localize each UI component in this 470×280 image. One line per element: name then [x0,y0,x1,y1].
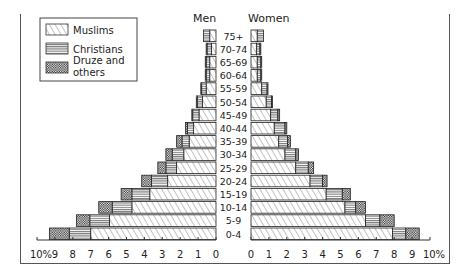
legend-label-christians: Christians [73,44,123,55]
bar-women-muslims-40-44 [251,122,274,134]
population-pyramid-chart: Muslims Christians Druze and others Men … [0,0,470,280]
women-tick-label: 4 [319,249,325,260]
bar-women-christians-15-19 [326,188,342,200]
women-tick-label: 2 [284,249,290,260]
bar-men-christians-40-44 [187,122,193,134]
bar-women-druze-20-24 [323,175,327,187]
women-tick-label: 7 [373,249,379,260]
age-label: 10-14 [220,202,248,213]
bar-women-muslims-65-69 [251,56,257,68]
bar-men-muslims-75+ [210,30,216,42]
bar-women-christians-75+ [257,30,263,42]
bar-women-muslims-30-34 [251,149,285,161]
age-label: 0-4 [226,229,242,240]
bar-men-muslims-25-29 [177,162,216,174]
bar-men-druze-10-14 [99,202,112,214]
age-label: 40-44 [220,123,248,134]
bar-women-druze-65-69 [261,56,262,68]
bar-women-druze-40-44 [285,122,287,134]
women-title: Women [248,12,289,25]
bar-women-muslims-10-14 [251,202,345,214]
men-tick-label: 1 [195,249,201,260]
men-tick-label: 8 [70,249,76,260]
bar-men-muslims-5-9 [109,215,216,227]
bar-women-muslims-45-49 [251,109,271,121]
bar-women-christians-5-9 [366,215,380,227]
bar-men-christians-15-19 [132,188,150,200]
bar-men-druze-15-19 [121,188,132,200]
bar-men-christians-70-74 [207,43,211,55]
bar-men-muslims-15-19 [150,188,216,200]
women-tick-label: 3 [302,249,308,260]
bar-men-muslims-20-24 [168,175,216,187]
women-tick-label: 1 [266,249,272,260]
bar-men-christians-25-29 [166,162,177,174]
bar-women-druze-15-19 [342,188,350,200]
men-tick-label: 10% [30,249,52,260]
bar-women-muslims-55-59 [251,83,262,95]
bar-men-christians-30-34 [172,149,184,161]
bar-men-druze-25-29 [158,162,166,174]
bar-men-druze-60-64 [205,70,206,82]
bar-women-muslims-50-54 [251,96,266,108]
bar-women-christians-30-34 [285,149,296,161]
bar-men-christians-20-24 [152,175,168,187]
men-tick-label: 4 [141,249,147,260]
age-label: 25-29 [220,163,248,174]
bar-women-druze-55-59 [267,83,268,95]
bar-women-muslims-20-24 [251,175,310,187]
bar-men-muslims-65-69 [210,56,216,68]
age-label: 70-74 [220,44,248,55]
bar-men-druze-0-4 [50,228,70,240]
age-label: 30-34 [220,149,248,160]
men-tick-label: 3 [159,249,165,260]
bar-men-druze-20-24 [142,175,152,187]
men-tick-label: 2 [177,249,183,260]
age-label: 15-19 [220,189,248,200]
men-title: Men [193,12,216,25]
bar-men-muslims-10-14 [132,202,216,214]
bar-men-druze-65-69 [205,56,206,68]
bar-women-druze-10-14 [356,202,366,214]
bar-men-muslims-35-39 [189,136,216,148]
bar-men-druze-35-39 [177,136,182,148]
bar-women-muslims-60-64 [251,70,257,82]
men-tick-label: 6 [105,249,111,260]
bar-women-christians-35-39 [279,136,288,148]
bar-women-christians-25-29 [296,162,309,174]
legend-label-muslims: Muslims [73,25,114,36]
bar-women-druze-30-34 [296,149,299,161]
bar-men-christians-10-14 [112,202,132,214]
age-label: 45-49 [220,110,248,121]
bar-men-christians-75+ [203,30,209,42]
women-tick-label: 0 [248,249,254,260]
axes-group: 10%9876543210012345678910% [30,237,445,260]
age-label: 5-9 [226,215,242,226]
bar-men-druze-45-49 [192,109,193,121]
legend-label-druze-line2: others [73,67,105,78]
bar-men-christians-55-59 [202,83,206,95]
bar-women-druze-70-74 [260,43,261,55]
bar-men-druze-50-54 [196,96,197,108]
women-tick-label: 9 [409,249,415,260]
bar-men-muslims-40-44 [194,122,216,134]
legend-swatch-druze [46,62,68,73]
bar-women-druze-50-54 [272,96,273,108]
bar-women-muslims-75+ [251,30,257,42]
bar-men-muslims-55-59 [206,83,216,95]
bar-women-christians-20-24 [310,175,323,187]
bar-women-christians-60-64 [257,70,261,82]
bar-men-druze-5-9 [76,215,89,227]
bar-men-druze-55-59 [201,83,202,95]
legend-swatch-christians [46,43,68,54]
age-label: 75+ [223,31,243,42]
bar-women-muslims-70-74 [251,43,256,55]
women-tick-label: 10% [423,249,445,260]
bar-men-christians-5-9 [90,215,110,227]
bar-women-christians-10-14 [345,202,356,214]
bar-women-christians-50-54 [266,96,271,108]
bar-women-druze-35-39 [288,136,291,148]
bar-men-druze-40-44 [186,122,188,134]
bar-women-christians-65-69 [257,56,261,68]
men-tick-label: 5 [123,249,129,260]
